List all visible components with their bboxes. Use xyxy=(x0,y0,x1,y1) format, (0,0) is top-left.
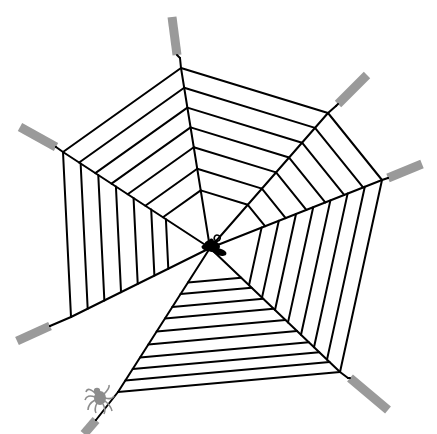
ring-segment xyxy=(181,68,328,113)
ring-segment xyxy=(163,190,201,217)
ring-segment xyxy=(125,362,329,380)
ring-segment xyxy=(314,194,348,348)
ring-segment xyxy=(276,172,306,210)
ring-segment xyxy=(81,164,88,309)
ring-segment xyxy=(181,288,252,294)
anchor-post-lower-right xyxy=(350,378,388,410)
ring-segment xyxy=(128,147,194,194)
ring-segment xyxy=(118,372,340,392)
ring-segment xyxy=(63,68,181,152)
anchor-post-right xyxy=(388,164,422,178)
spider-icon xyxy=(85,385,114,414)
spoke-tail-lower-right xyxy=(340,372,348,378)
web-rings xyxy=(63,68,382,392)
anchor-post-upper-left xyxy=(20,127,56,147)
ring-segment xyxy=(151,210,154,276)
ring-segment xyxy=(191,127,289,157)
ring-segment xyxy=(328,113,382,180)
anchor-post-bottom-left xyxy=(84,420,96,434)
ring-segment xyxy=(197,169,262,189)
ring-segment xyxy=(315,128,363,188)
ring-segment xyxy=(248,205,265,226)
ring-segment xyxy=(98,175,104,300)
ring-segment xyxy=(63,152,71,317)
ring-segment xyxy=(301,200,330,334)
spoke-tail-upper-left xyxy=(56,147,63,152)
ring-segment xyxy=(201,190,248,204)
spoke-tail-top xyxy=(180,58,181,68)
anchor-post-top xyxy=(172,17,177,55)
ring-segment xyxy=(184,88,315,128)
spoke-tail-upper-right xyxy=(328,106,336,113)
fly-icon xyxy=(200,232,230,258)
spoke-tail-left xyxy=(50,317,71,326)
spider-web-canvas xyxy=(0,0,437,434)
ring-segment xyxy=(194,147,276,172)
ring-segment xyxy=(166,219,168,269)
ring-segment xyxy=(249,228,262,286)
ring-segment xyxy=(112,127,191,183)
ring-segment xyxy=(157,320,286,332)
ring-segment xyxy=(165,309,274,319)
ring-segment xyxy=(116,187,121,293)
ring-segment xyxy=(262,189,286,218)
ring-segment xyxy=(327,187,365,360)
anchor-post-left xyxy=(17,326,50,341)
ring-segment xyxy=(302,143,344,195)
spider-web-scene: Spider web illustration xyxy=(0,0,437,434)
ring-segment xyxy=(172,299,263,307)
ring-segment xyxy=(145,169,197,206)
ring-segment xyxy=(187,108,302,143)
ring-segment xyxy=(79,88,184,163)
anchor-post-upper-right xyxy=(338,75,367,104)
spoke-tie-top xyxy=(177,55,180,58)
ring-segment xyxy=(148,331,297,344)
ring-segment xyxy=(262,221,279,298)
ring-segment xyxy=(288,207,313,322)
spoke-bottom-left xyxy=(118,248,210,392)
spoke-tie-upper-right xyxy=(336,104,338,106)
ring-segment xyxy=(188,278,241,283)
ring-segment xyxy=(134,198,138,284)
